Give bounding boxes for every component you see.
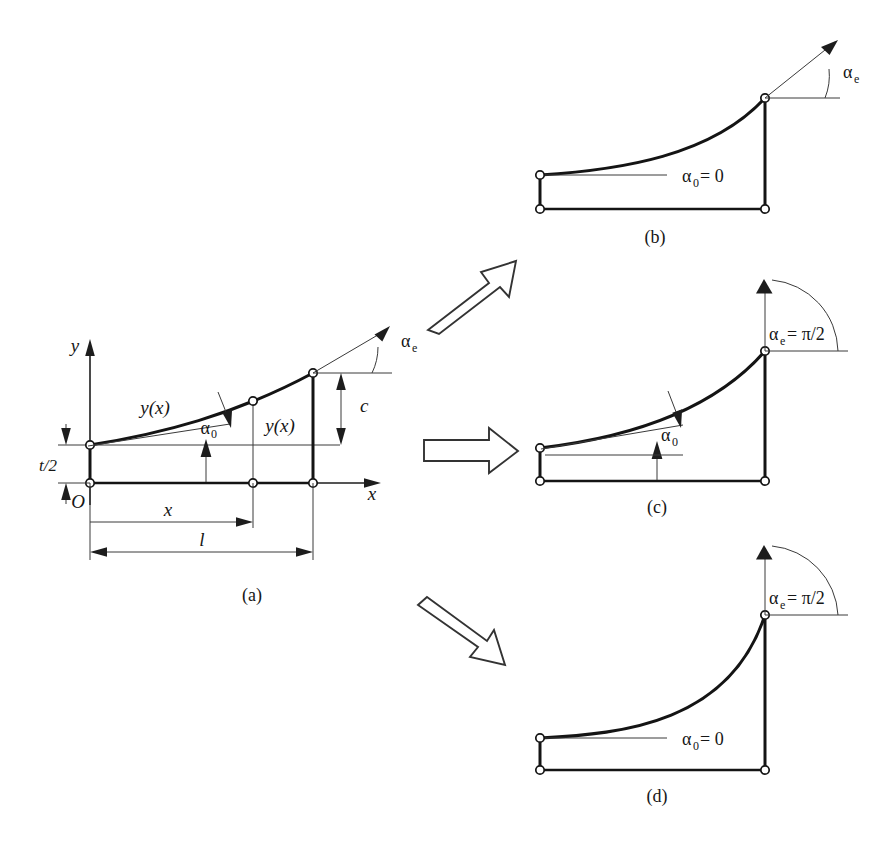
panel-b: α 0 = 0 α e (b): [536, 40, 860, 248]
alpha-e-subscript-a: e: [412, 341, 417, 355]
panel-c-caption: (c): [647, 497, 667, 518]
x-axis-label: x: [367, 483, 377, 504]
dimension-c-label-a: c: [360, 395, 369, 416]
dimension-t-half-label-a: t/2: [39, 456, 57, 475]
alpha-e-label-a: α e: [401, 331, 417, 355]
curve-label-left-a: y(x): [138, 397, 170, 419]
alpha-e-label-c: α e = π/2: [769, 324, 825, 348]
alpha-e-symbol-d: α: [769, 588, 779, 608]
alpha-e-value-c: = π/2: [787, 324, 825, 344]
dimension-c-a: [336, 373, 346, 445]
alpha-e-subscript-b: e: [854, 72, 859, 86]
beam-curve-d: [540, 615, 765, 738]
tip-tangent-arrowhead-a: [375, 326, 391, 342]
node-d-root-bottom: [536, 766, 544, 774]
beam-curve-c: [540, 351, 765, 448]
origin-label: O: [71, 491, 85, 512]
panel-d-caption: (d): [647, 786, 668, 807]
alpha-e-label-d: α e = π/2: [769, 588, 825, 612]
alpha-e-symbol-b: α: [843, 62, 853, 82]
curve-normal-marker-a: [218, 392, 232, 428]
alpha-e-value-d: = π/2: [787, 588, 825, 608]
alpha0-symbol-b: α: [682, 166, 692, 186]
dimension-x-label-a: x: [163, 499, 173, 520]
panel-a: y x O y(x): [39, 326, 417, 606]
y-axis-label: y: [69, 335, 80, 356]
arrow-a-to-b: [428, 261, 516, 334]
arrow-a-to-d: [418, 597, 505, 665]
node-c-root-bottom: [536, 477, 544, 485]
alpha-e-subscript-c: e: [780, 334, 785, 348]
node-d-root-top: [536, 734, 544, 742]
dimension-l-label-a: l: [199, 529, 204, 550]
beam-curve-b: [540, 98, 765, 175]
tip-tangent-arrowhead-b: [821, 40, 838, 55]
panel-d: α 0 = 0 α e = π/2 (d): [536, 545, 848, 807]
curve-normal-marker-c: [668, 391, 682, 428]
node-c-root-top: [536, 444, 544, 452]
node-b-root-top: [536, 171, 544, 179]
node-b-root-bottom: [536, 205, 544, 213]
alpha0-symbol-c: α: [661, 425, 671, 445]
alpha-e-subscript-d: e: [780, 598, 785, 612]
alpha0-subscript-c: 0: [672, 435, 678, 449]
alpha-e-label-b: α e: [843, 62, 859, 86]
panel-c: α 0 α e = π/2 (c): [536, 279, 848, 518]
panel-a-caption: (a): [242, 585, 262, 606]
alpha-e-arc-a: [372, 347, 378, 373]
alpha0-label-b: α 0 = 0: [682, 166, 724, 190]
tip-tangent-arrowhead-c: [756, 279, 773, 294]
alpha0-label-d: α 0 = 0: [682, 729, 724, 753]
alpha0-symbol-a: α: [201, 418, 211, 438]
alpha0-subscript-b: 0: [693, 176, 699, 190]
alpha0-label-c: α 0: [661, 425, 678, 449]
node-d-tip-bottom: [761, 766, 769, 774]
node-c-tip-bottom: [761, 477, 769, 485]
panel-b-caption: (b): [645, 227, 666, 248]
alpha0-value-d: = 0: [700, 729, 724, 749]
tip-tangent-line-b: [765, 42, 835, 98]
alpha0-value-b: = 0: [700, 166, 724, 186]
alpha-e-arc-b: [825, 69, 829, 98]
alpha-e-symbol-a: α: [401, 331, 411, 351]
alpha-e-symbol-c: α: [769, 324, 779, 344]
curve-label-mid-a: y(x): [263, 415, 295, 437]
alpha0-subscript-d: 0: [693, 739, 699, 753]
alpha0-leader-c: [652, 441, 663, 480]
node-b-tip-bottom: [761, 205, 769, 213]
tip-tangent-arrowhead-d: [756, 545, 773, 560]
technical-diagram: y x O y(x): [0, 0, 888, 848]
alpha0-label-a: α 0: [201, 418, 217, 441]
alpha0-symbol-d: α: [682, 729, 692, 749]
alpha0-subscript-a: 0: [211, 427, 217, 441]
arrow-a-to-c: [424, 428, 518, 473]
node-a-mid-curve: [249, 397, 257, 405]
figure-root: y x O y(x): [0, 0, 888, 848]
